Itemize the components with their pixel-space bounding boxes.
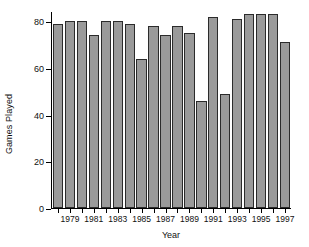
x-axis-title: Year bbox=[51, 230, 291, 240]
y-tick-label: 0 bbox=[39, 204, 44, 214]
y-axis-title-text: Games Played bbox=[4, 93, 14, 153]
bar bbox=[232, 19, 242, 208]
x-tick-mark bbox=[225, 209, 226, 213]
x-tick-mark bbox=[130, 209, 131, 213]
x-tick-label: 1995 bbox=[252, 214, 271, 224]
bar bbox=[160, 35, 170, 208]
x-tick-label: 1987 bbox=[156, 214, 175, 224]
x-tick-mark bbox=[70, 209, 71, 213]
x-tick-mark bbox=[213, 209, 214, 213]
bar bbox=[268, 14, 278, 208]
x-tick-mark bbox=[58, 209, 59, 213]
x-tick-label: 1989 bbox=[180, 214, 199, 224]
x-tick-mark bbox=[82, 209, 83, 213]
bar bbox=[196, 101, 206, 208]
y-tick-label: 60 bbox=[34, 64, 44, 74]
x-tick-mark bbox=[249, 209, 250, 213]
bar bbox=[136, 59, 146, 208]
x-tick-mark bbox=[285, 209, 286, 213]
y-tick-mark bbox=[46, 162, 51, 163]
bar-series bbox=[52, 12, 291, 208]
bar bbox=[148, 26, 158, 208]
bar bbox=[280, 42, 290, 208]
y-tick-label: 20 bbox=[34, 157, 44, 167]
bar bbox=[113, 21, 123, 208]
y-tick-label: 80 bbox=[34, 17, 44, 27]
bar bbox=[244, 14, 254, 208]
bar bbox=[53, 24, 63, 208]
x-tick-label: 1981 bbox=[84, 214, 103, 224]
x-tick-label: 1991 bbox=[204, 214, 223, 224]
x-tick-mark bbox=[273, 209, 274, 213]
x-tick-label: 1985 bbox=[132, 214, 151, 224]
x-tick-label: 1993 bbox=[228, 214, 247, 224]
y-tick-mark bbox=[46, 22, 51, 23]
x-tick-label: 1997 bbox=[276, 214, 295, 224]
bar bbox=[256, 14, 266, 208]
bar bbox=[77, 21, 87, 208]
x-tick-mark bbox=[118, 209, 119, 213]
x-tick-mark bbox=[261, 209, 262, 213]
y-tick-mark bbox=[46, 116, 51, 117]
bar-chart: Games Played 020406080 19791981198319851… bbox=[0, 0, 309, 247]
x-tick-mark bbox=[106, 209, 107, 213]
bar bbox=[220, 94, 230, 208]
x-tick-mark bbox=[154, 209, 155, 213]
x-tick-mark bbox=[201, 209, 202, 213]
plot-area: 020406080 197919811983198519871989199119… bbox=[51, 12, 291, 209]
x-tick-label: 1979 bbox=[60, 214, 79, 224]
bar bbox=[125, 24, 135, 208]
y-tick-mark bbox=[46, 69, 51, 70]
bar bbox=[65, 21, 75, 208]
bar bbox=[172, 26, 182, 208]
y-axis-title: Games Played bbox=[2, 0, 16, 247]
x-tick-mark bbox=[166, 209, 167, 213]
x-tick-mark bbox=[189, 209, 190, 213]
x-tick-mark bbox=[237, 209, 238, 213]
x-tick-mark bbox=[94, 209, 95, 213]
y-tick-mark bbox=[46, 209, 51, 210]
x-tick-label: 1983 bbox=[108, 214, 127, 224]
x-tick-mark bbox=[177, 209, 178, 213]
y-tick-label: 40 bbox=[34, 111, 44, 121]
bar bbox=[184, 33, 194, 208]
x-axis-line bbox=[51, 208, 291, 209]
bar bbox=[208, 17, 218, 208]
x-tick-mark bbox=[142, 209, 143, 213]
bar bbox=[89, 35, 99, 208]
bar bbox=[101, 21, 111, 208]
